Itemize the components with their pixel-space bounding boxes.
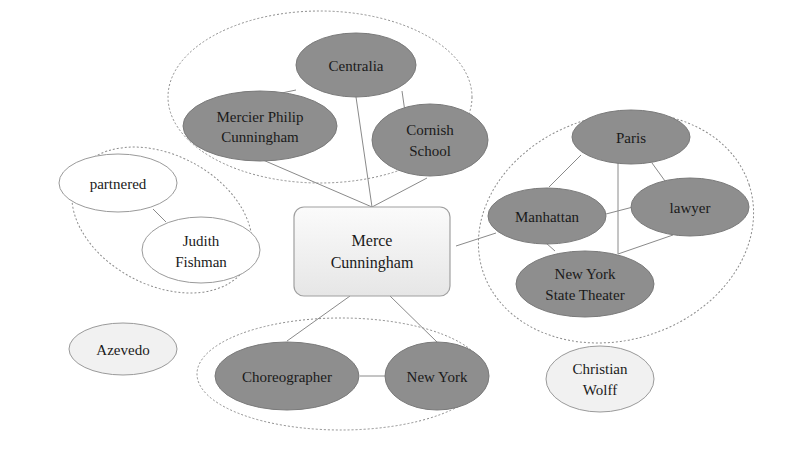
concept-diagram: Merce Cunningham Centralia Mercier Phili… (0, 0, 800, 453)
node-merce-cunningham[interactable]: Merce Cunningham (294, 207, 450, 296)
node-christian-wolff[interactable]: Christian Wolff (546, 346, 654, 412)
node-label: New York (407, 369, 468, 385)
node-label: State Theater (545, 287, 624, 303)
node-label: partnered (90, 176, 147, 192)
node-label: Judith (183, 233, 220, 249)
node-label: Cunningham (221, 129, 299, 145)
node-centralia[interactable]: Centralia (296, 33, 416, 97)
node-label: Mercier Philip (216, 109, 303, 125)
node-partnered[interactable]: partnered (59, 154, 177, 212)
node-lawyer[interactable]: lawyer (631, 178, 749, 236)
node-new-york-state-theater[interactable]: New York State Theater (516, 251, 654, 317)
node-label: Merce (352, 232, 393, 249)
node-label: Choreographer (242, 369, 332, 385)
node-label: School (409, 143, 451, 159)
node-label: Manhattan (515, 209, 580, 225)
node-label: Christian (573, 361, 628, 377)
node-label: Cunningham (331, 254, 414, 272)
node-label: lawyer (670, 200, 711, 216)
node-label: Paris (616, 130, 646, 146)
node-azevedo[interactable]: Azevedo (69, 323, 177, 375)
node-label: Wolff (583, 382, 617, 398)
node-label: Cornish (406, 122, 454, 138)
node-choreographer[interactable]: Choreographer (215, 342, 359, 410)
node-mercier-philip-cunningham[interactable]: Mercier Philip Cunningham (183, 91, 337, 161)
node-paris[interactable]: Paris (572, 110, 690, 164)
node-manhattan[interactable]: Manhattan (488, 188, 606, 244)
node-label: Azevedo (96, 342, 149, 358)
node-label: Centralia (329, 58, 384, 74)
node-cornish-school[interactable]: Cornish School (372, 104, 488, 176)
node-label: New York (555, 266, 616, 282)
node-label: Fishman (175, 254, 227, 270)
node-judith-fishman[interactable]: Judith Fishman (142, 217, 260, 283)
node-new-york[interactable]: New York (385, 342, 489, 410)
